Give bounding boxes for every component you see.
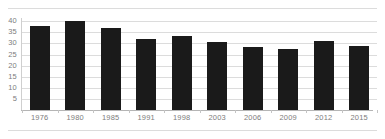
- x-axis-tick-label: 2006: [244, 114, 262, 122]
- y-axis-tick-label: 40: [8, 18, 17, 26]
- x-axis-tick: [129, 110, 130, 113]
- x-axis-tick-label: 2015: [351, 114, 369, 122]
- y-axis-tick-label: 5: [13, 95, 17, 103]
- bar: [314, 41, 334, 110]
- x-axis-tick: [235, 110, 236, 113]
- bar: [207, 42, 227, 110]
- x-axis-tick: [22, 110, 23, 113]
- x-axis-tick-label: 1998: [173, 114, 191, 122]
- bar: [172, 36, 192, 110]
- bar: [101, 28, 121, 110]
- x-axis-tick-label: 1980: [67, 114, 85, 122]
- y-axis-tick-label: 15: [8, 73, 17, 81]
- bar: [65, 21, 85, 110]
- bar: [30, 26, 50, 110]
- bar-chart: 510152025303540 197619801985199119982003…: [0, 0, 385, 139]
- x-axis-tick: [377, 110, 378, 113]
- bottom-divider-rule: [8, 130, 377, 131]
- x-axis-tick-label: 2003: [209, 114, 227, 122]
- x-axis-tick: [271, 110, 272, 113]
- bar: [278, 49, 298, 110]
- x-axis-tick: [342, 110, 343, 113]
- x-axis-tick: [306, 110, 307, 113]
- x-axis-tick: [164, 110, 165, 113]
- bar: [243, 47, 263, 110]
- y-axis-tick-label: 20: [8, 62, 17, 70]
- y-axis-tick-label: 30: [8, 40, 17, 48]
- top-divider-rule: [8, 8, 377, 9]
- x-axis-tick-label: 1976: [31, 114, 49, 122]
- x-axis-tick: [58, 110, 59, 113]
- x-axis-tick-label: 1985: [102, 114, 120, 122]
- y-axis-tick-label: 25: [8, 51, 17, 59]
- plot-area: [22, 18, 377, 110]
- x-axis-tick-label: 2009: [280, 114, 298, 122]
- bar: [349, 46, 369, 110]
- bar-series: [22, 18, 377, 110]
- bar: [136, 39, 156, 110]
- y-axis-tick-label: 10: [8, 84, 17, 92]
- y-axis-tick-labels: 510152025303540: [0, 18, 20, 110]
- x-axis-tick-label: 1991: [138, 114, 156, 122]
- x-axis-tick: [200, 110, 201, 113]
- x-axis-tick-label: 2012: [315, 114, 333, 122]
- x-axis-tick-labels: 1976198019851991199820032006200920122015: [22, 114, 377, 126]
- x-axis-tick: [93, 110, 94, 113]
- y-axis-tick-label: 35: [8, 29, 17, 37]
